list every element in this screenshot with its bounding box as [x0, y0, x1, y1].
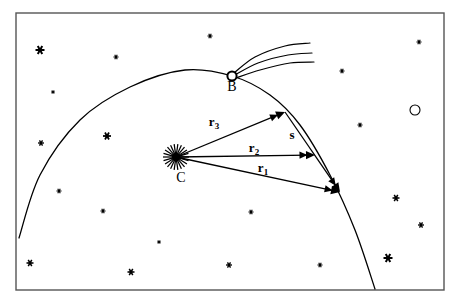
- starburst-core: [172, 153, 180, 161]
- star-core: [102, 210, 104, 212]
- star-core: [130, 271, 133, 274]
- star-core: [29, 262, 32, 265]
- star-core: [359, 124, 361, 126]
- star-core: [58, 190, 60, 192]
- star-core: [115, 56, 117, 58]
- star-core: [341, 70, 343, 72]
- star-core: [158, 241, 160, 243]
- star-core: [40, 142, 43, 145]
- faint-disk-circle: [410, 105, 420, 115]
- star-core: [395, 197, 398, 200]
- star-core: [105, 134, 108, 137]
- label-point-c: C: [176, 170, 185, 185]
- star-core: [228, 264, 231, 267]
- star-core: [38, 48, 42, 52]
- star-core: [209, 35, 211, 37]
- star-core: [418, 41, 420, 43]
- orbit-diagram-svg: BCr3r2r1s: [0, 0, 457, 303]
- star-core: [420, 224, 423, 227]
- star-core: [52, 91, 54, 93]
- star-core: [250, 211, 252, 213]
- figure-canvas: BCr3r2r1s: [0, 0, 457, 303]
- label-vector-s: s: [289, 127, 294, 142]
- label-point-b: B: [227, 79, 236, 94]
- star-core: [319, 264, 321, 266]
- star-core: [386, 256, 390, 260]
